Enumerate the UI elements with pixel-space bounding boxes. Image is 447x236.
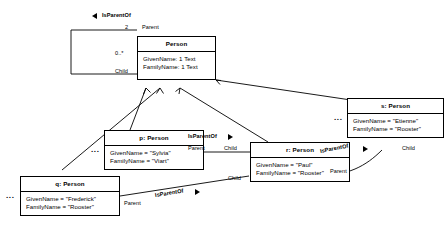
object-node-q-ellipsis: ... [6, 192, 14, 200]
class-attribute-givenname: GivenName: 1 Text [143, 55, 211, 63]
class-attribute-familyname: FamilyName: 1 Text [143, 63, 211, 71]
object-node-q[interactable]: q: Person GivenName = "Frederick" Family… [20, 176, 120, 216]
uml-object-diagram: Person GivenName: 1 Text FamilyName: 1 T… [0, 0, 447, 236]
arrowheads [144, 80, 222, 94]
link-p-r-direction-icon [228, 134, 233, 140]
class-node-title: Person [138, 37, 215, 52]
link-q-r-child-role: Child [228, 175, 241, 181]
object-node-q-attributes: GivenName = "Frederick" FamilyName = "Ro… [21, 192, 119, 214]
object-node-q-title: q: Person [21, 177, 119, 192]
link-r-s-direction-icon [363, 146, 368, 152]
link-p-r-child-role: Child [224, 145, 237, 151]
self-association-parent-role: Parent [142, 24, 159, 30]
object-node-s[interactable]: s: Person GivenName = "Etienne" FamilyNa… [347, 98, 444, 138]
class-node-attributes: GivenName: 1 Text FamilyName: 1 Text [138, 52, 215, 74]
link-q-r-direction-icon [195, 189, 200, 195]
object-p-attribute-familyname: FamilyName = "Viart" [110, 157, 199, 165]
object-q-attribute-givenname: GivenName = "Frederick" [26, 195, 115, 203]
link-q-r-parent-role: Parent [124, 200, 141, 206]
edge-instance-p [130, 88, 146, 130]
object-node-s-title: s: Person [348, 99, 443, 114]
self-association-parent-multiplicity: 2 [125, 24, 128, 30]
self-association-child-role: Child [115, 68, 128, 74]
object-q-attribute-familyname: FamilyName = "Rooster" [26, 203, 115, 211]
link-r-s-parent-role: Parent [330, 168, 347, 174]
object-node-p-ellipsis: ... [91, 146, 99, 154]
link-p-r-parent-role: Parent [188, 145, 205, 151]
object-p-attribute-givenname: GivenName = "Sylvia" [110, 149, 199, 157]
link-p-r-name: IsParentOf [188, 133, 217, 139]
object-s-attribute-givenname: GivenName = "Etienne" [353, 117, 439, 125]
class-node-person[interactable]: Person GivenName: 1 Text FamilyName: 1 T… [137, 36, 216, 80]
self-association-direction-icon [92, 13, 97, 19]
link-r-s-child-role: Child [402, 145, 415, 151]
object-node-s-attributes: GivenName = "Etienne" FamilyName = "Roos… [348, 114, 443, 136]
object-node-s-ellipsis: ... [334, 114, 342, 122]
object-s-attribute-familyname: FamilyName = "Rooster" [353, 125, 439, 133]
self-association-child-multiplicity: 0..* [115, 50, 124, 56]
self-association-name: IsParentOf [102, 12, 131, 18]
link-q-r-name: IsParentOf [155, 188, 184, 198]
